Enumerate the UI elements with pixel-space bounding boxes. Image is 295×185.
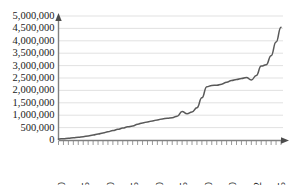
x-tick-label: 1995 xyxy=(178,182,189,185)
chart-canvas: 0500,0001,000,0001,500,0002,000,0002,500… xyxy=(0,0,295,185)
data-series-line xyxy=(59,27,282,139)
y-tick-label: 500,000 xyxy=(20,122,54,133)
x-tick-label: 2000 xyxy=(203,182,214,185)
y-tick-label: 2,500,000 xyxy=(13,72,55,83)
y-tick-label: 5,000,000 xyxy=(13,10,55,21)
x-tick-label: 1985 xyxy=(129,182,140,185)
x-tick-label: 2012 xyxy=(252,182,263,185)
y-tick-label: 2,000,000 xyxy=(13,84,55,95)
y-tick-label: 0 xyxy=(49,134,54,145)
x-axis-tick-labels: 1970197519801985199019952000201020122015 xyxy=(56,182,288,185)
y-tick-label: 3,000,000 xyxy=(13,60,55,71)
x-tick-label: 2015 xyxy=(276,182,287,185)
y-tick-label: 4,500,000 xyxy=(13,22,55,33)
y-axis-tick-labels: 0500,0001,000,0001,500,0002,000,0002,500… xyxy=(13,10,55,145)
x-tick-label: 1990 xyxy=(154,182,165,185)
y-tick-label: 1,500,000 xyxy=(13,97,55,108)
x-tick-label: 1980 xyxy=(105,182,116,185)
x-axis-ticks xyxy=(59,141,282,145)
y-axis-arrow-icon xyxy=(55,13,61,21)
y-tick-label: 4,000,000 xyxy=(13,35,55,46)
x-tick-label: 1970 xyxy=(56,182,67,185)
y-tick-label: 1,000,000 xyxy=(13,109,55,120)
gridlines xyxy=(59,16,284,128)
x-tick-label: 1975 xyxy=(80,182,91,185)
x-tick-label: 2010 xyxy=(227,182,238,185)
line-chart: 0500,0001,000,0001,500,0002,000,0002,500… xyxy=(0,0,295,185)
x-axis-arrow-icon xyxy=(281,137,289,143)
y-tick-label: 3,500,000 xyxy=(13,47,55,58)
